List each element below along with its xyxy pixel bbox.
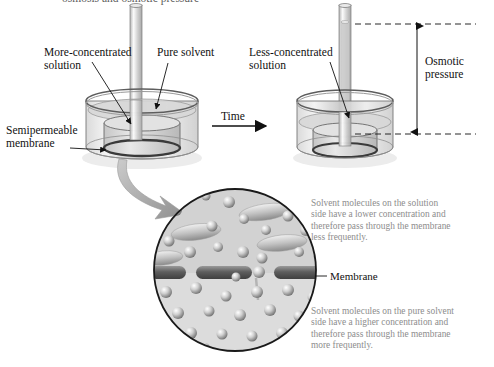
label-less-concentrated-solution: Less-concentrated solution bbox=[249, 46, 333, 72]
label-membrane: Membrane bbox=[330, 270, 378, 283]
right-apparatus bbox=[293, 4, 397, 169]
left-apparatus bbox=[82, 4, 202, 170]
label-semipermeable-membrane: Semipermeable membrane bbox=[6, 124, 78, 150]
membrane-band bbox=[150, 266, 350, 279]
label-osmotic-pressure: Osmotic pressure bbox=[425, 55, 464, 81]
molecule-in-pore bbox=[253, 266, 265, 278]
note-solution-side: Solvent molecules on the solution side h… bbox=[311, 198, 451, 244]
osmosis-figure: osmosis and osmotic pressure bbox=[0, 0, 494, 367]
note-pure-solvent-side: Solvent molecules on the pure solvent si… bbox=[311, 306, 454, 352]
label-pure-solvent: Pure solvent bbox=[157, 46, 214, 59]
label-more-concentrated-solution: More-concentrated solution bbox=[44, 46, 131, 72]
label-time: Time bbox=[221, 110, 245, 122]
